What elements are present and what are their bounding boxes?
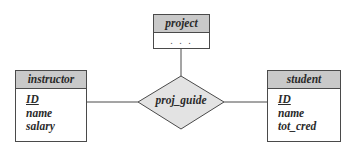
attribute-salary: salary — [26, 120, 86, 134]
entity-instructor-header: instructor — [16, 71, 86, 89]
entity-student-header: student — [268, 71, 340, 89]
attribute-name: name — [26, 107, 86, 121]
attribute-id-label: ID — [278, 93, 291, 105]
entity-student-attributes: ID name tot_cred — [268, 89, 340, 134]
attribute-id-label: ID — [26, 93, 39, 105]
attribute-primary-key: ID — [26, 93, 86, 107]
attribute-name: name — [278, 107, 340, 121]
entity-instructor[interactable]: instructor ID name salary — [15, 70, 87, 142]
er-diagram-canvas: proj_guide project . . . instructor ID n… — [0, 0, 355, 152]
attribute-primary-key: ID — [278, 93, 340, 107]
entity-project-attributes-placeholder: . . . — [154, 33, 209, 48]
entity-instructor-attributes: ID name salary — [16, 89, 86, 134]
entity-project[interactable]: project . . . — [153, 14, 210, 49]
entity-student[interactable]: student ID name tot_cred — [267, 70, 341, 142]
entity-project-header: project — [154, 15, 209, 33]
attribute-tot-cred: tot_cred — [278, 120, 340, 134]
relationship-label: proj_guide — [141, 94, 221, 106]
